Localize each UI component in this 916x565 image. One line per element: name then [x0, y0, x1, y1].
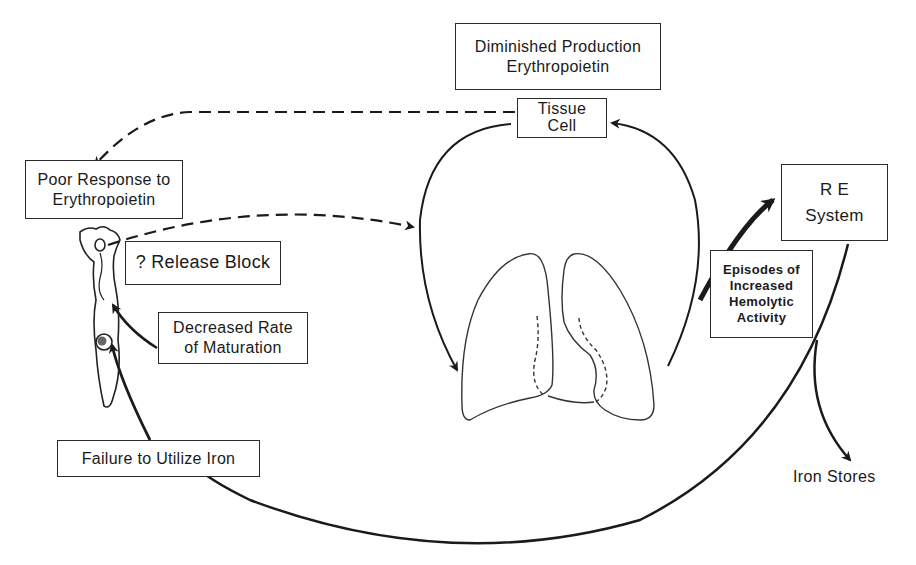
diminished-production-box: Diminished Production Erythropoietin — [455, 23, 661, 90]
release-block-box: ? Release Block — [125, 241, 281, 285]
arrow-tissue-to-lungs — [420, 124, 511, 370]
diminished-production-line-2: Erythropoietin — [507, 57, 610, 77]
decreased-rate-box: Decreased Rate of Maturation — [158, 312, 308, 364]
re-system-line-2: System — [805, 203, 863, 229]
arrow-failure-to-cell — [112, 345, 150, 440]
decreased-rate-line-1: Decreased Rate — [173, 318, 293, 338]
poor-response-line-2: Erythropoietin — [53, 190, 156, 210]
iron-stores-label: Iron Stores — [793, 468, 876, 486]
diminished-production-line-1: Diminished Production — [475, 37, 641, 57]
re-system-line-1: R E — [820, 177, 849, 203]
hemolytic-episodes-box: Episodes of Increased Hemolytic Activity — [710, 250, 813, 338]
hemolytic-line-4: Activity — [737, 310, 786, 326]
failure-utilize-iron-box: Failure to Utilize Iron — [57, 440, 260, 477]
poor-response-line-1: Poor Response to — [38, 170, 171, 190]
dashed-arrow-tissue-to-poor-response — [95, 112, 515, 165]
lungs-icon — [462, 254, 654, 420]
failure-utilize-iron-label: Failure to Utilize Iron — [82, 449, 236, 469]
release-block-label: ? Release Block — [136, 252, 271, 274]
tissue-cell-box: Tissue Cell — [517, 98, 607, 138]
tissue-cell-line-1: Tissue — [538, 101, 586, 118]
erythropoiesis-diagram: Diminished Production Erythropoietin Tis… — [0, 0, 916, 565]
arrow-decreased-rate — [113, 305, 157, 348]
tissue-cell-line-2: Cell — [548, 118, 577, 135]
poor-response-box: Poor Response to Erythropoietin — [25, 160, 183, 219]
arrow-lungs-to-tissue — [612, 123, 699, 366]
erythroid-cell-icon — [80, 227, 120, 407]
re-system-box: R E System — [781, 164, 888, 241]
hemolytic-line-3: Hemolytic — [729, 294, 794, 310]
hemolytic-line-2: Increased — [730, 278, 793, 294]
hemolytic-line-1: Episodes of — [723, 262, 800, 278]
arrow-re-to-iron-stores — [814, 340, 850, 460]
decreased-rate-line-2: of Maturation — [184, 338, 281, 358]
